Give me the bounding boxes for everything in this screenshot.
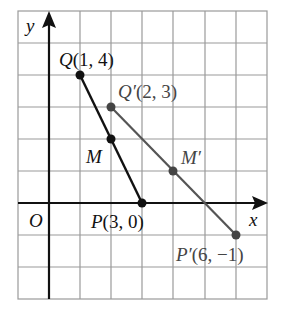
y-axis-label: y xyxy=(24,15,35,36)
label-Qp: Q′(2, 3) xyxy=(118,81,177,103)
label-P: P(3, 0) xyxy=(90,211,144,233)
point-M xyxy=(107,135,116,144)
point-Q xyxy=(76,71,85,80)
point-P xyxy=(138,199,147,208)
label-M: M xyxy=(85,146,103,167)
point-Mp xyxy=(169,167,178,176)
x-axis-label: x xyxy=(248,209,258,230)
point-Qp xyxy=(107,103,116,112)
origin-label: O xyxy=(29,210,43,231)
label-Q: Q(1, 4) xyxy=(59,49,114,71)
label-Mp: M′ xyxy=(180,147,202,168)
coordinate-diagram: y x O Q(1, 4) Q′(2, 3) M M′ P(3, 0) P′(6… xyxy=(0,0,283,324)
label-Pp: P′(6, −1) xyxy=(175,244,244,266)
point-Pp xyxy=(232,231,241,240)
